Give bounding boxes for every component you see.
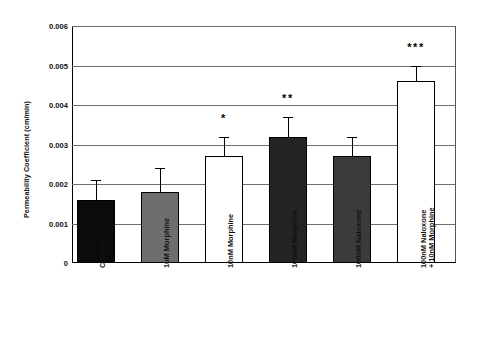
significance-marker: * — [221, 113, 227, 124]
significance-marker: ** — [282, 93, 294, 104]
x-category-label: 100nM Morphine — [291, 210, 299, 268]
error-bar — [288, 117, 289, 137]
error-bar — [96, 180, 97, 200]
x-category-label: 1uM Morphine — [163, 218, 171, 268]
x-category-label: 100nM Naloxone — [355, 210, 363, 268]
y-tick-label: 0.002 — [32, 180, 68, 189]
x-axis-baseline — [72, 262, 456, 263]
y-axis-tick-labels: 0.0060.0050.0040.0030.0020.0010 — [30, 0, 68, 360]
error-bar-cap — [347, 137, 357, 138]
y-tick-label: 0.003 — [32, 140, 68, 149]
bar — [77, 200, 115, 263]
y-tick-label: 0.001 — [32, 219, 68, 228]
x-category-label: 100nM Naloxone + 10nM Morphine — [420, 207, 437, 268]
error-bar — [352, 137, 353, 157]
error-bar — [416, 66, 417, 82]
significance-marker: *** — [407, 42, 425, 53]
error-bar-cap — [155, 168, 165, 169]
y-tick-label: 0.004 — [32, 101, 68, 110]
y-tick-label: 0 — [32, 259, 68, 268]
y-tick-label: 0.005 — [32, 61, 68, 70]
x-category-label: CONTROL — [99, 231, 107, 268]
plot-area: ****** — [72, 26, 456, 263]
x-category-label: 10nM Morphine — [227, 214, 235, 268]
bar — [333, 156, 371, 263]
error-bar-cap — [91, 180, 101, 181]
bar — [205, 156, 243, 263]
y-tick-label: 0.006 — [32, 22, 68, 31]
gridline — [72, 66, 456, 67]
error-bar — [224, 137, 225, 157]
plot-right-edge — [455, 26, 456, 263]
bar-chart-figure: Permeability Coefficient (cm/min) 0.0060… — [0, 0, 482, 360]
error-bar — [160, 168, 161, 192]
error-bar-cap — [219, 137, 229, 138]
bar — [269, 137, 307, 263]
gridline — [72, 26, 456, 27]
error-bar-cap — [283, 117, 293, 118]
error-bar-cap — [411, 66, 421, 67]
bar — [141, 192, 179, 263]
